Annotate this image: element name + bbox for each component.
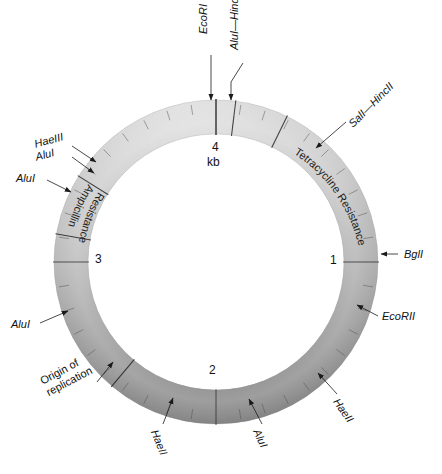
scale-number-3: 3 — [95, 253, 102, 266]
scale-number-1: 1 — [330, 254, 337, 267]
plasmid-ring-svg: Tetracycline Resistance Ampicillin Resis… — [0, 0, 442, 474]
label-alui-upperleft: AluI — [16, 172, 35, 184]
label-bgli: BglI — [404, 248, 423, 260]
scale-number-kb: kb — [207, 156, 220, 169]
label-alui-hindii: AluI—HindII — [228, 0, 240, 50]
plasmid-ring — [0, 0, 442, 474]
scale-number-2: 2 — [209, 364, 216, 377]
label-alui-left: AluI — [11, 318, 30, 330]
plasmid-map-figure: Tetracycline Resistance Ampicillin Resis… — [0, 0, 442, 474]
label-ecorii: EcoRII — [382, 310, 415, 322]
scale-number-4: 4 — [212, 141, 219, 154]
label-ecori: EcoRI — [197, 4, 209, 34]
